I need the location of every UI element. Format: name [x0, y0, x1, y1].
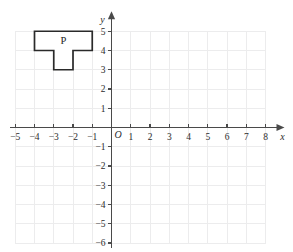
x-tick-label: −5 [10, 132, 20, 142]
axis-labels: xyO [99, 14, 285, 141]
x-tick-label: −4 [29, 132, 39, 142]
axis-ticks: −5−4−3−2−11234567854321−1−2−3−4−5−6 [10, 27, 268, 249]
y-tick-label: −6 [95, 238, 105, 248]
origin-label: O [115, 129, 122, 140]
x-tick-label: 2 [148, 132, 153, 142]
x-tick-label: 7 [244, 132, 249, 142]
x-tick-label: 3 [167, 132, 172, 142]
x-tick-label: −2 [68, 132, 78, 142]
y-tick-label: −3 [95, 181, 105, 191]
plotted-shapes: P [35, 31, 93, 70]
y-tick-label: 3 [101, 65, 106, 75]
y-tick-label: 4 [101, 46, 106, 56]
x-tick-label: 5 [205, 132, 210, 142]
x-axis-label: x [279, 131, 285, 142]
y-axis-label: y [99, 14, 105, 25]
x-tick-label: 1 [128, 132, 133, 142]
y-tick-label: −1 [95, 142, 105, 152]
coordinate-plane: −5−4−3−2−11234567854321−1−2−3−4−5−6 P xy… [0, 0, 293, 252]
y-tick-label: −5 [95, 219, 105, 229]
y-tick-label: −2 [95, 161, 105, 171]
y-tick-label: 5 [101, 27, 106, 37]
y-axis-arrow-icon [108, 11, 115, 19]
shape-label-p: P [60, 35, 66, 46]
coordinate-grid-figure: −5−4−3−2−11234567854321−1−2−3−4−5−6 P xy… [0, 0, 293, 252]
x-tick-label: 8 [263, 132, 268, 142]
x-tick-label: 4 [186, 132, 191, 142]
y-tick-label: 2 [101, 84, 106, 94]
y-tick-label: 1 [101, 104, 106, 114]
y-tick-label: −4 [95, 200, 105, 210]
x-tick-label: 6 [225, 132, 230, 142]
x-tick-label: −3 [49, 132, 59, 142]
x-tick-label: −1 [87, 132, 97, 142]
